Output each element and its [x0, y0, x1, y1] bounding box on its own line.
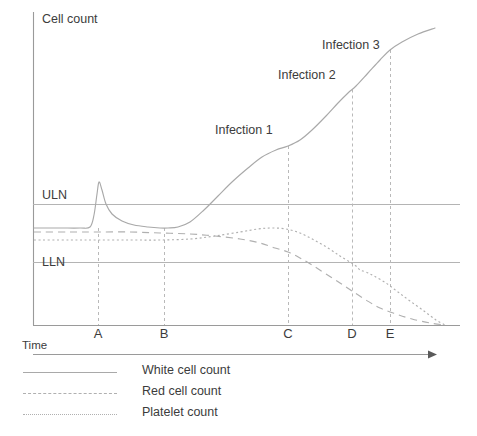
- guide-lines-group: [99, 50, 391, 325]
- x-tick-label-c: C: [283, 326, 292, 341]
- legend-label: White cell count: [142, 363, 230, 377]
- x-tick-label-e: E: [386, 326, 395, 341]
- annotation-label-infection-3: Infection 3: [322, 38, 380, 52]
- x-tick-label-a: A: [94, 326, 103, 341]
- legend-item-white-cell-count: White cell count: [20, 362, 320, 383]
- legend-item-red-cell-count: Red cell count: [20, 383, 320, 404]
- x-axis-label: Time: [22, 338, 47, 353]
- annotation-label-infection-2: Infection 2: [278, 68, 336, 82]
- legend-swatch-solid-icon: [23, 372, 117, 374]
- legend-label: Platelet count: [142, 405, 218, 419]
- data-series-group: [34, 28, 445, 325]
- x-tick-label-d: D: [347, 326, 356, 341]
- lln-label: LLN: [42, 255, 65, 270]
- y-axis-label: Cell count: [42, 12, 98, 27]
- legend-swatch-dotted-icon: [23, 414, 117, 416]
- x-tick-label-b: B: [160, 326, 169, 341]
- chart-container: Cell count ULN LLN Time ABCDE Infection …: [0, 0, 477, 436]
- legend-swatch-dashed-icon: [23, 393, 117, 395]
- uln-label: ULN: [42, 188, 67, 203]
- legend-label: Red cell count: [142, 384, 221, 398]
- legend-item-platelet-count: Platelet count: [20, 404, 320, 425]
- reference-lines-group: [33, 205, 460, 263]
- annotation-label-infection-1: Infection 1: [215, 123, 273, 137]
- series-line-red-cell-count: [34, 232, 445, 325]
- time-axis-arrow-icon: [428, 350, 437, 358]
- series-line-platelet-count: [34, 228, 445, 325]
- time-axis-group: [33, 350, 437, 358]
- chart-legend: White cell count Red cell count Platelet…: [20, 362, 320, 425]
